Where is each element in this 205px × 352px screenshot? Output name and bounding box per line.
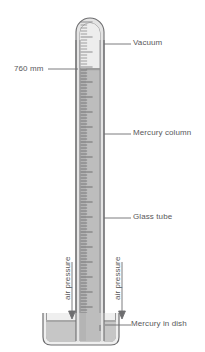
label-air-pressure-right: air pressure bbox=[113, 257, 122, 300]
label-height-reading: 760 mm bbox=[14, 64, 44, 73]
label-air-pressure-left: air pressure bbox=[63, 257, 72, 300]
label-mercury-in-dish: Mercury in dish bbox=[131, 319, 187, 328]
barometer-figure: Vacuum Mercury column Glass tube Mercury… bbox=[0, 0, 205, 352]
label-glass-tube: Glass tube bbox=[133, 212, 172, 221]
label-vacuum: Vacuum bbox=[133, 38, 162, 47]
label-mercury-column: Mercury column bbox=[133, 128, 191, 137]
mercury-in-bore-lower-shading bbox=[80, 313, 86, 341]
tube-left-leg-in-dish bbox=[76, 313, 80, 342]
barometer-drawing bbox=[0, 0, 205, 352]
tube-right-leg-in-dish bbox=[100, 313, 104, 342]
